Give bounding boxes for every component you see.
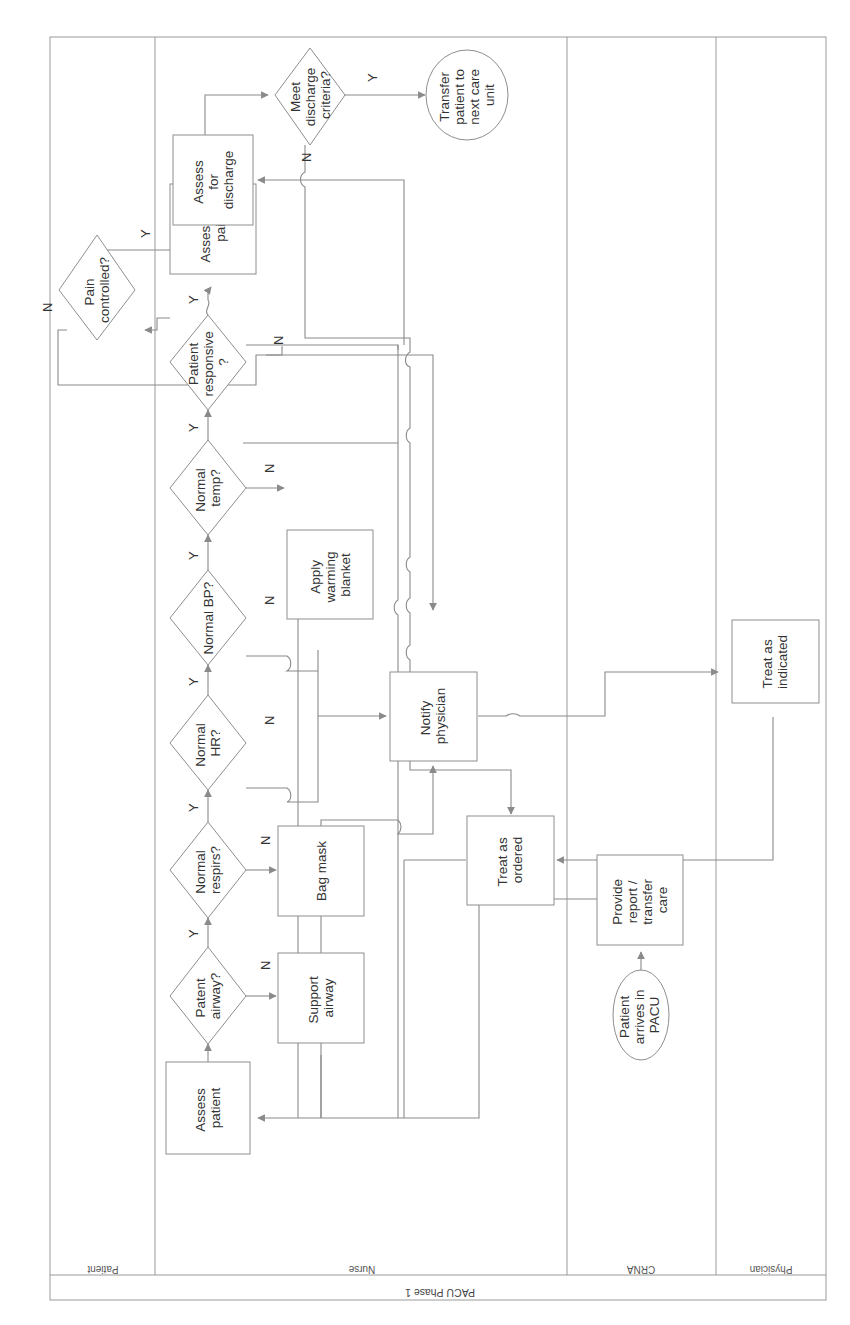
connectors	[58, 95, 773, 1118]
svg-text:Assess patient: Assess patient	[193, 1084, 223, 1131]
node-bag-mask[interactable]: Bag mask	[278, 826, 364, 916]
node-pain-controlled[interactable]: Pain controlled?	[59, 235, 135, 340]
lane-label-physician: Physician	[750, 1264, 793, 1275]
pacu-swimlane-diagram: PACU Phase 1 Patient Nurse CRNA Physicia…	[0, 0, 850, 1325]
node-meet-discharge-criteria[interactable]: Meet discharge criteria?	[275, 48, 345, 145]
node-support-airway[interactable]: Support airway	[278, 953, 364, 1043]
svg-text:Patent airway?: Patent airway?	[193, 973, 223, 1020]
label-yes: Y	[138, 229, 153, 238]
node-patent-airway[interactable]: Patent airway?	[170, 947, 246, 1044]
node-normal-respirs[interactable]: Normal respirs?	[170, 822, 246, 918]
node-assess-patient[interactable]: Assess patient	[166, 1062, 250, 1154]
svg-text:Treat as indicated: Treat as indicated	[760, 635, 790, 689]
node-patient-arrives[interactable]: Patient arrives in PACU	[613, 970, 669, 1060]
diagram-title: PACU Phase 1	[405, 1287, 475, 1299]
label-yes: Y	[186, 551, 201, 560]
label-no: N	[258, 961, 273, 970]
node-provide-report[interactable]: Provide report / transfer care	[597, 855, 683, 945]
lane-label-patient: Patient	[87, 1264, 118, 1275]
node-treat-as-ordered[interactable]: Treat as ordered	[467, 816, 554, 905]
label-no: N	[40, 303, 55, 312]
label-yes: Y	[186, 929, 201, 938]
label-no: N	[262, 464, 277, 473]
node-notify-physician[interactable]: Notify physician	[390, 672, 477, 761]
node-treat-as-indicated[interactable]: Treat as indicated	[732, 620, 819, 703]
svg-text:Treat as ordered: Treat as ordered	[495, 834, 525, 887]
node-normal-bp[interactable]: Normal BP?	[170, 570, 246, 665]
svg-text:Normal temp?: Normal temp?	[193, 464, 223, 511]
label-no: N	[262, 596, 277, 605]
node-normal-hr[interactable]: Normal HR?	[170, 695, 246, 790]
node-apply-warming-blanket[interactable]: Apply warming blanket	[287, 530, 373, 619]
label-yes: Y	[365, 73, 380, 82]
svg-text:Support airway: Support airway	[306, 972, 336, 1023]
svg-text:Normal respirs?: Normal respirs?	[193, 846, 223, 894]
lane-label-nurse: Nurse	[348, 1264, 375, 1275]
lane-label-crna: CRNA	[627, 1264, 656, 1275]
label-yes: Y	[186, 295, 201, 304]
label-yes: Y	[186, 423, 201, 432]
node-transfer-patient[interactable]: Transfer patient to next care unit	[426, 50, 508, 140]
label-no: N	[271, 336, 286, 345]
label-no: N	[258, 836, 273, 845]
label-no: N	[262, 716, 277, 725]
svg-text:Normal BP?: Normal BP?	[201, 582, 216, 655]
label-yes: Y	[186, 803, 201, 812]
node-normal-temp[interactable]: Normal temp?	[170, 440, 246, 535]
node-assess-for-discharge[interactable]: Assess for discharge	[173, 135, 253, 225]
label-no: N	[299, 153, 314, 162]
label-yes: Y	[186, 677, 201, 686]
node-patient-responsive[interactable]: Patient responsive ?	[170, 315, 246, 410]
svg-text:Bag mask: Bag mask	[314, 841, 329, 901]
